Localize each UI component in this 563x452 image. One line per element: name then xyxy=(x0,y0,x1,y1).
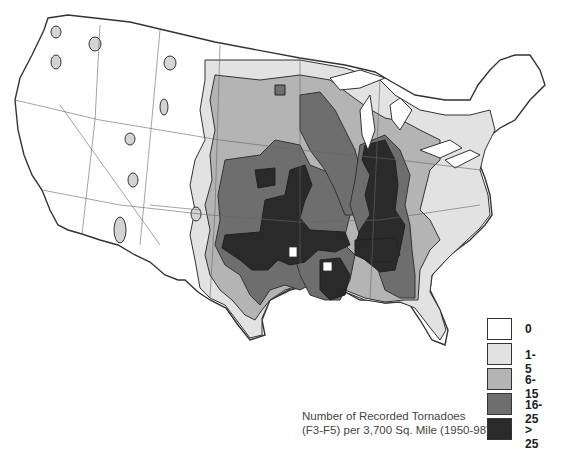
legend-label-over-25: > 25 xyxy=(525,423,538,451)
legend-label-1-5: 1-5 xyxy=(525,348,536,376)
us-tornado-map xyxy=(0,0,563,452)
map-caption: Number of Recorded Tornadoes (F3-F5) per… xyxy=(302,409,490,437)
legend-swatch-over-25 xyxy=(487,418,512,440)
region-zero-hole-1 xyxy=(289,247,297,257)
legend-label-6-15: 6-15 xyxy=(525,373,538,401)
caption-line-1: Number of Recorded Tornadoes xyxy=(302,409,490,423)
region-over-25-sd xyxy=(275,85,285,95)
legend-swatch-6-15 xyxy=(487,368,512,390)
legend-swatch-16-25 xyxy=(487,393,512,415)
legend-swatch-1-5 xyxy=(487,343,512,365)
legend-label-16-25: 16-25 xyxy=(525,398,542,426)
region-over-25-kansas xyxy=(255,168,275,188)
region-zero-hole-2 xyxy=(323,262,332,271)
region-over-25-ms xyxy=(355,238,400,262)
caption-line-2: (F3-F5) per 3,700 Sq. Mile (1950-98) xyxy=(302,423,490,437)
legend-label-0: 0 xyxy=(525,322,532,336)
legend-swatch-0 xyxy=(487,318,512,340)
